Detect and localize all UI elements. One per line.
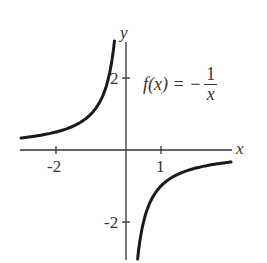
- formula-fraction: 1 x: [204, 65, 217, 105]
- x-axis-label: x: [236, 140, 244, 157]
- formula-numerator: 1: [204, 65, 217, 85]
- x-tick-label-1: 1: [156, 158, 165, 175]
- x-tick-label-neg2: -2: [47, 158, 61, 175]
- y-tick-label-neg2: -2: [104, 214, 118, 231]
- formula-denominator: x: [207, 85, 215, 105]
- curve-right-branch: [138, 162, 231, 259]
- curve-left-branch: [21, 41, 115, 138]
- y-axis: [122, 42, 130, 260]
- y-axis-label: y: [120, 24, 128, 41]
- y-tick-label-2: 2: [110, 70, 119, 87]
- function-annotation: f(x) = − 1 x: [143, 65, 217, 105]
- function-plot: [0, 0, 267, 263]
- formula-lhs: f(x) = −: [143, 74, 201, 95]
